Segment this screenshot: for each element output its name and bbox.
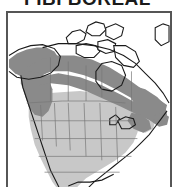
north-america-map (7, 12, 171, 187)
range-map-figure: FIBI BOREAL (0, 0, 175, 187)
figure-title: FIBI BOREAL (0, 0, 175, 8)
map-frame (6, 11, 172, 187)
